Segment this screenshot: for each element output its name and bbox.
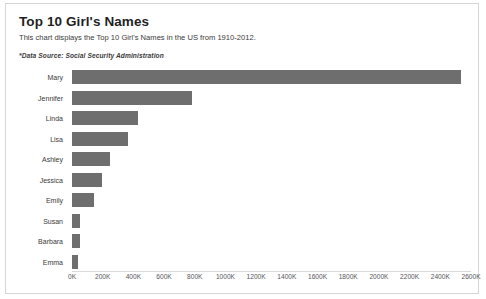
x-axis-tick-label: 2200K <box>400 273 419 280</box>
y-axis-label: Ashley <box>42 156 63 163</box>
y-axis-labels: MaryJenniferLindaLisaAshleyJessicaEmilyS… <box>15 66 67 271</box>
y-axis-label: Jennifer <box>38 94 63 101</box>
x-axis-tick-label: 600K <box>156 273 171 280</box>
y-axis-label: Lisa <box>50 135 63 142</box>
bar <box>72 255 78 269</box>
x-axis-ticks: 0K200K400K600K800K1000K1200K1400K1600K18… <box>15 273 471 287</box>
plot-area: MaryJenniferLindaLisaAshleyJessicaEmilyS… <box>15 66 471 291</box>
y-axis-label: Jessica <box>40 176 63 183</box>
y-axis-label: Emily <box>46 197 63 204</box>
chart-card: Top 10 Girl's Names This chart displays … <box>5 3 479 294</box>
page-title: Top 10 Girl's Names <box>19 14 468 30</box>
bar <box>72 132 128 146</box>
x-axis-tick-label: 200K <box>95 273 110 280</box>
chart-header: Top 10 Girl's Names This chart displays … <box>19 14 468 43</box>
x-axis-tick-label: 1600K <box>308 273 327 280</box>
x-axis-tick-label: 1800K <box>339 273 358 280</box>
x-axis-tick-label: 2000K <box>369 273 388 280</box>
y-axis-label: Barbara <box>38 238 63 245</box>
y-axis-label: Emma <box>43 258 63 265</box>
x-axis-tick-label: 0K <box>68 273 76 280</box>
x-axis-tick-label: 2400K <box>431 273 450 280</box>
bar <box>72 152 110 166</box>
bar <box>72 173 102 187</box>
bar-series <box>72 66 471 271</box>
x-axis-tick-label: 1000K <box>216 273 235 280</box>
bar <box>72 91 192 105</box>
x-axis-tick-label: 2600K <box>461 273 480 280</box>
y-axis-label: Mary <box>47 74 63 81</box>
y-axis-label: Susan <box>43 217 63 224</box>
x-axis-tick-label: 800K <box>187 273 202 280</box>
chart-subtitle: This chart displays the Top 10 Girl's Na… <box>19 32 468 43</box>
x-axis-line <box>72 271 471 272</box>
bar <box>72 193 94 207</box>
bar <box>72 234 80 248</box>
x-axis-tick-label: 400K <box>126 273 141 280</box>
bar <box>72 70 461 84</box>
bar <box>72 111 138 125</box>
y-axis-label: Linda <box>46 115 63 122</box>
data-source-note: *Data Source: Social Security Administra… <box>19 52 164 59</box>
x-axis-tick-label: 1200K <box>247 273 266 280</box>
bar <box>72 214 80 228</box>
x-axis-tick-label: 1400K <box>277 273 296 280</box>
